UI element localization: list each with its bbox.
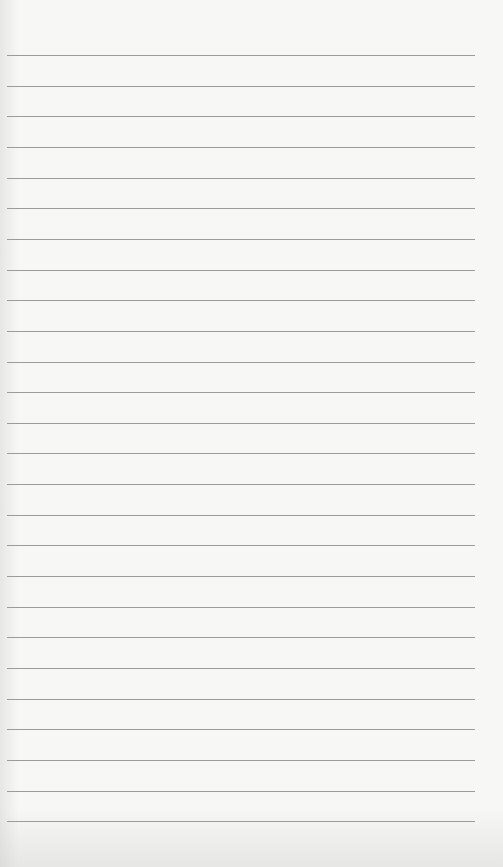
ruled-line xyxy=(7,147,475,148)
ruled-line xyxy=(7,392,475,393)
ruled-line xyxy=(7,55,475,56)
ruled-line xyxy=(7,362,475,363)
ruled-line xyxy=(7,729,475,730)
ruled-line xyxy=(7,270,475,271)
ruled-line xyxy=(7,607,475,608)
ruled-line xyxy=(7,760,475,761)
ruled-line xyxy=(7,668,475,669)
ruled-line xyxy=(7,545,475,546)
ruled-line xyxy=(7,515,475,516)
ruled-line xyxy=(7,453,475,454)
ruled-line xyxy=(7,699,475,700)
ruled-line xyxy=(7,208,475,209)
ruled-line xyxy=(7,331,475,332)
lined-paper xyxy=(0,0,503,867)
ruled-line xyxy=(7,239,475,240)
ruled-line xyxy=(7,576,475,577)
ruled-line xyxy=(7,116,475,117)
ruled-line xyxy=(7,178,475,179)
ruled-line xyxy=(7,423,475,424)
ruled-line xyxy=(7,637,475,638)
ruled-line xyxy=(7,300,475,301)
ruled-line xyxy=(7,791,475,792)
ruled-line xyxy=(7,821,475,822)
ruled-line xyxy=(7,86,475,87)
ruled-line xyxy=(7,484,475,485)
